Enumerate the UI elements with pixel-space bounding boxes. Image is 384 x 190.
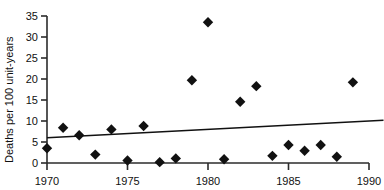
plot-area: Deaths per 100 unit-years 05101520253035… xyxy=(0,0,384,190)
x-tick-label: 1975 xyxy=(115,175,139,187)
chart-background xyxy=(0,0,384,190)
x-tick-label: 1990 xyxy=(357,175,381,187)
x-tick-label: 1970 xyxy=(35,175,59,187)
y-tick-label: 25 xyxy=(26,52,38,64)
scatter-chart: Deaths per 100 unit-years 05101520253035… xyxy=(0,0,384,190)
y-tick-label: 35 xyxy=(26,10,38,22)
x-tick-label: 1980 xyxy=(196,175,220,187)
y-tick-label: 5 xyxy=(32,136,38,148)
y-tick-label: 30 xyxy=(26,31,38,43)
y-axis-label-text: Deaths per 100 unit-years xyxy=(3,36,15,163)
y-tick-label: 0 xyxy=(32,157,38,169)
y-tick-label: 10 xyxy=(26,115,38,127)
x-tick-label: 1985 xyxy=(276,175,300,187)
y-axis-label: Deaths per 100 unit-years xyxy=(3,36,15,163)
y-tick-label: 15 xyxy=(26,94,38,106)
y-tick-label: 20 xyxy=(26,73,38,85)
